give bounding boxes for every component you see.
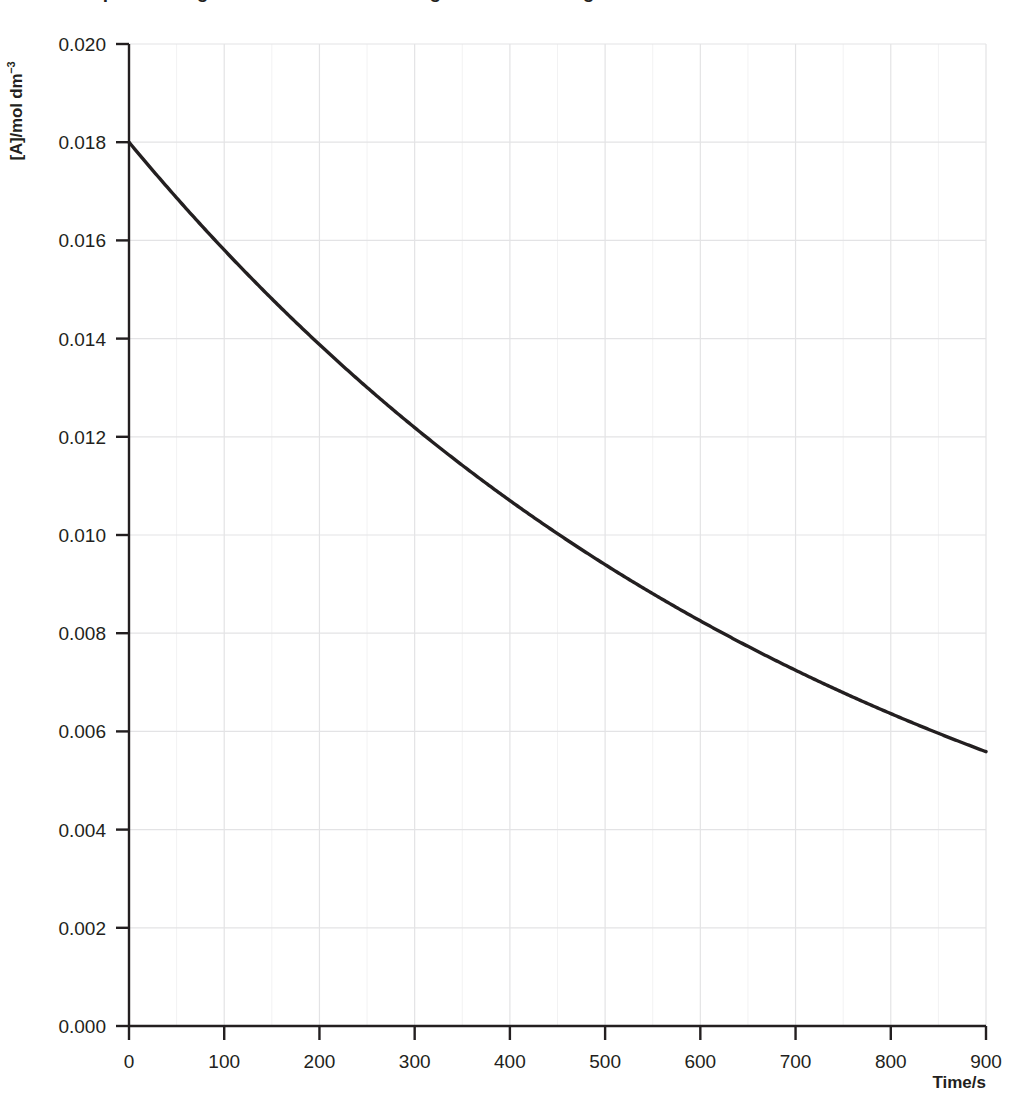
- y-tick-label: 0.010: [58, 525, 106, 546]
- y-tick-label: 0.000: [58, 1016, 106, 1037]
- y-tick-label: 0.002: [58, 918, 106, 939]
- y-tick-label: 0.016: [58, 230, 106, 251]
- x-tick-label: 700: [780, 1051, 812, 1072]
- y-tick-label: 0.006: [58, 721, 106, 742]
- x-tick-label: 400: [494, 1051, 526, 1072]
- x-tick-label: 0: [124, 1051, 135, 1072]
- figure-container: Graph showing the concentration of A aga…: [0, 0, 1011, 1105]
- y-tick-label: 0.014: [58, 329, 106, 350]
- y-tick-label: 0.012: [58, 427, 106, 448]
- x-tick-label: 900: [970, 1051, 1002, 1072]
- x-axis-ticks: 0100200300400500600700800900: [124, 1026, 1002, 1072]
- x-tick-label: 100: [208, 1051, 240, 1072]
- plot-area: 0.0000.0020.0040.0060.0080.0100.0120.014…: [0, 0, 1011, 1105]
- x-tick-label: 500: [589, 1051, 621, 1072]
- x-tick-label: 600: [684, 1051, 716, 1072]
- y-tick-label: 0.004: [58, 820, 106, 841]
- y-tick-label: 0.020: [58, 34, 106, 55]
- y-tick-label: 0.008: [58, 623, 106, 644]
- x-tick-label: 200: [304, 1051, 336, 1072]
- x-tick-label: 800: [875, 1051, 907, 1072]
- x-tick-label: 300: [399, 1051, 431, 1072]
- y-tick-label: 0.018: [58, 132, 106, 153]
- y-axis-ticks: 0.0000.0020.0040.0060.0080.0100.0120.014…: [58, 34, 129, 1037]
